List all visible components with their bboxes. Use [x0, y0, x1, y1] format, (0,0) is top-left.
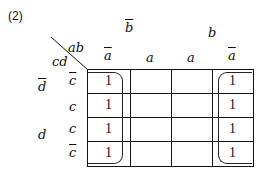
cell-r2c3 — [171, 93, 212, 117]
cell-r2c2 — [130, 93, 171, 117]
cell-r3c3 — [171, 117, 212, 141]
a-label-col3: a — [187, 51, 195, 64]
a-bar-label-col1: a — [104, 49, 112, 62]
d-bar-label: d — [38, 80, 46, 93]
d-label: d — [38, 128, 46, 141]
cell-r4c3 — [171, 141, 212, 165]
c-bar-label-row4: c — [69, 146, 76, 159]
cell-r1c2 — [130, 69, 171, 93]
corner-label-cd: cd — [52, 55, 68, 68]
group-loop-column-1 — [88, 72, 123, 164]
b-bar-label: b — [125, 21, 133, 34]
cell-r1c3 — [171, 69, 212, 93]
corner-label-ab: ab — [68, 41, 84, 54]
cell-r3c2 — [130, 117, 171, 141]
c-label-row2: c — [69, 100, 76, 113]
cell-r4c2 — [130, 141, 171, 165]
c-bar-label-row1: c — [69, 74, 76, 87]
b-label: b — [208, 26, 216, 39]
group-loop-column-4 — [218, 72, 252, 164]
c-label-row3: c — [69, 122, 76, 135]
a-label-col2: a — [146, 51, 154, 64]
a-bar-label-col4: a — [228, 49, 236, 62]
